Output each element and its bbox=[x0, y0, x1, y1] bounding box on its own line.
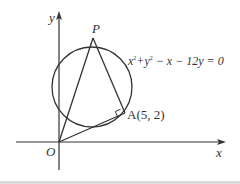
figure-drawing bbox=[0, 0, 240, 184]
bottom-band bbox=[0, 181, 240, 184]
origin-label: O bbox=[46, 145, 55, 158]
point-p-label: P bbox=[92, 22, 100, 35]
point-a-label: A(5, 2) bbox=[127, 108, 165, 121]
eq-plus-y: +y bbox=[136, 54, 149, 68]
eq-rest: − x − 12y = 0 bbox=[153, 54, 224, 68]
y-axis-label: y bbox=[49, 11, 55, 24]
segment-pa bbox=[93, 38, 125, 113]
x-axis-label: x bbox=[216, 146, 222, 159]
circle-geometry-figure: y x O P A(5, 2) x2+y2 − x − 12y = 0 bbox=[0, 0, 240, 184]
segment-oa bbox=[59, 113, 125, 142]
circle-equation: x2+y2 − x − 12y = 0 bbox=[128, 55, 224, 67]
